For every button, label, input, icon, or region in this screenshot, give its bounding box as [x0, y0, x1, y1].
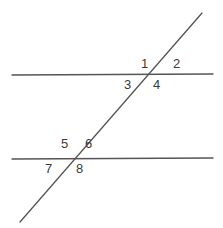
- angle-label-7: 7: [45, 162, 52, 175]
- transversal-line: [20, 13, 202, 222]
- angle-label-3: 3: [124, 78, 131, 91]
- upper-parallel-line: [12, 74, 213, 75]
- lower-parallel-line: [12, 158, 213, 159]
- angle-label-8: 8: [76, 162, 83, 175]
- geometry-canvas: [0, 0, 223, 228]
- angle-label-5: 5: [61, 137, 68, 150]
- angle-label-1: 1: [141, 57, 148, 70]
- geometry-diagram: 1 2 3 4 5 6 7 8: [0, 0, 223, 228]
- angle-label-6: 6: [85, 137, 92, 150]
- angle-label-2: 2: [173, 57, 180, 70]
- angle-label-4: 4: [153, 78, 160, 91]
